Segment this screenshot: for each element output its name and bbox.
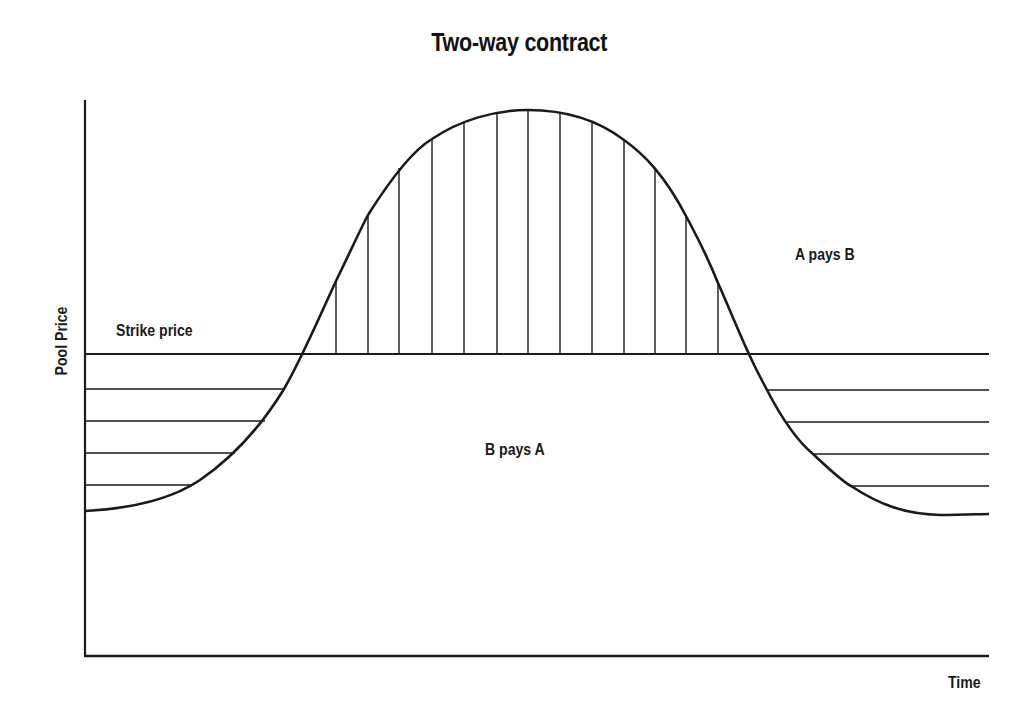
x-axis-label: Time [948,674,981,692]
b-pays-a-hatching-right [767,390,989,486]
strike-price-label: Strike price [116,322,193,340]
a-pays-b-label: A pays B [795,246,855,264]
y-axis-label: Pool Price [53,307,71,376]
a-pays-b-hatching [336,110,718,354]
two-way-contract-diagram [0,0,1035,718]
b-pays-a-label: B pays A [485,441,545,459]
b-pays-a-hatching-left [85,389,284,485]
